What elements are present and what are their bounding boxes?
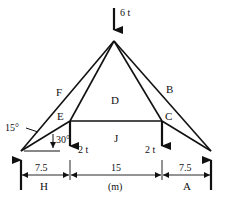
left-load-label: 2 t — [78, 144, 89, 155]
angle-annotations — [24, 128, 60, 151]
right-tie — [162, 121, 211, 151]
label-F: F — [56, 86, 62, 98]
dim-middle-value: 15 — [111, 162, 121, 173]
apex-load: 6 t — [114, 7, 131, 30]
angle-30-label: 30° — [56, 134, 70, 145]
left-strut-apex-E — [70, 41, 114, 121]
right-panel-load: 2 t — [145, 121, 162, 155]
left-panel-load: 2 t — [70, 121, 89, 155]
right-strut-apex-C — [114, 41, 162, 121]
apex-load-label: 6 t — [120, 7, 131, 18]
dim-unit: (m) — [108, 181, 122, 193]
angle-15-label: 15° — [5, 122, 19, 133]
truss-diagram: 6 t 2 t 2 t 15° 30° F B D E C J 7.5 15 7… — [0, 0, 229, 210]
angle-15-leader — [26, 128, 38, 132]
right-load-label: 2 t — [145, 144, 156, 155]
label-C: C — [165, 110, 172, 122]
label-D: D — [111, 94, 119, 106]
label-B: B — [166, 83, 173, 95]
dim-right-value: 7.5 — [179, 162, 192, 173]
label-H: H — [40, 180, 48, 192]
label-E: E — [57, 110, 64, 122]
dim-left-value: 7.5 — [35, 162, 48, 173]
label-A: A — [183, 180, 191, 192]
label-J: J — [114, 132, 119, 144]
